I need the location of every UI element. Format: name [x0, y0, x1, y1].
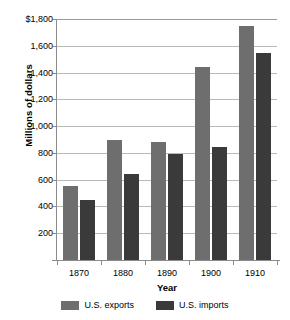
- y-axis-tick-labels: 2004006008001,0001,2001,4001,600$1,800: [0, 0, 53, 320]
- y-axis-tick-label: $1,800: [3, 15, 53, 24]
- bar-chart: Millions of dollars 2004006008001,0001,2…: [0, 0, 290, 320]
- x-axis-tick-mark: [145, 260, 146, 265]
- chart-legend: U.S. exportsU.S. imports: [0, 300, 290, 310]
- y-axis-tick-label: 800: [3, 149, 53, 158]
- y-axis-tick-label: 1,200: [3, 95, 53, 104]
- y-axis-tick-label: 1,600: [3, 42, 53, 51]
- y-axis-tick-label: 1,400: [3, 69, 53, 78]
- x-axis-title: Year: [57, 282, 277, 293]
- bar-1890-exports: [151, 142, 166, 260]
- bar-1890-imports: [168, 154, 183, 260]
- x-axis-tick-mark: [233, 260, 234, 265]
- y-axis-tick-label: 600: [3, 176, 53, 185]
- y-axis-tick-label: 1,000: [3, 122, 53, 131]
- bar-1880-exports: [107, 140, 122, 260]
- x-axis-tick-label: 1890: [144, 268, 190, 278]
- legend-item-exports: U.S. exports: [61, 300, 134, 310]
- bar-1870-imports: [80, 200, 95, 260]
- x-axis-tick-label: 1870: [56, 268, 102, 278]
- bar-1910-imports: [256, 53, 271, 260]
- y-axis-tick-label: 200: [3, 229, 53, 238]
- x-axis-tick-label: 1910: [232, 268, 278, 278]
- x-axis-tick-mark: [277, 260, 278, 265]
- x-axis-tick-label: 1880: [100, 268, 146, 278]
- legend-item-imports: U.S. imports: [156, 300, 229, 310]
- plot-area: [57, 19, 277, 260]
- legend-swatch-icon: [156, 301, 174, 310]
- y-axis-tick-label: 400: [3, 202, 53, 211]
- legend-label: U.S. exports: [84, 300, 134, 310]
- legend-label: U.S. imports: [179, 300, 229, 310]
- gridline: [57, 19, 277, 20]
- x-axis-tick-label: 1900: [188, 268, 234, 278]
- legend-swatch-icon: [61, 301, 79, 310]
- x-axis-line: [52, 260, 280, 261]
- bar-1870-exports: [63, 186, 78, 260]
- bar-1900-exports: [195, 67, 210, 260]
- bar-1880-imports: [124, 174, 139, 260]
- x-axis-tick-mark: [101, 260, 102, 265]
- x-axis-tick-mark: [57, 260, 58, 265]
- bar-1900-imports: [212, 147, 227, 260]
- bar-1910-exports: [239, 26, 254, 260]
- x-axis-tick-mark: [189, 260, 190, 265]
